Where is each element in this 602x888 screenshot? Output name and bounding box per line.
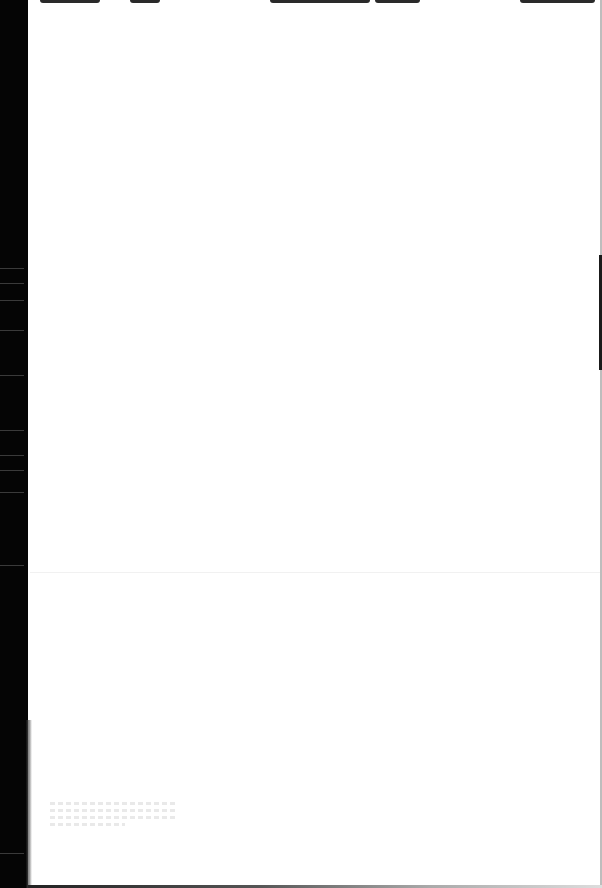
binding-notch (0, 268, 24, 269)
top-smudge (270, 0, 370, 3)
binding-notch (0, 330, 24, 331)
bleed-line (50, 823, 125, 826)
binding-fray (26, 720, 32, 888)
bleed-line (50, 809, 175, 812)
binding-notch (0, 470, 24, 471)
top-smudge (375, 0, 420, 3)
top-smudge (520, 0, 595, 3)
faint-scan-line (30, 572, 600, 573)
binding-notch (0, 492, 24, 493)
binding-notch (0, 430, 24, 431)
top-smudge (130, 0, 160, 3)
binding-notch (0, 455, 24, 456)
binding-notch (0, 565, 24, 566)
bleed-line (50, 802, 175, 805)
binding-notch (0, 853, 24, 854)
binding-edge (0, 0, 28, 888)
bleed-through-text (50, 798, 175, 840)
scanned-page (0, 0, 602, 888)
binding-notch (0, 300, 24, 301)
binding-notch (0, 283, 24, 284)
binding-notch (0, 375, 24, 376)
top-smudge (40, 0, 100, 3)
bleed-line (50, 816, 175, 819)
